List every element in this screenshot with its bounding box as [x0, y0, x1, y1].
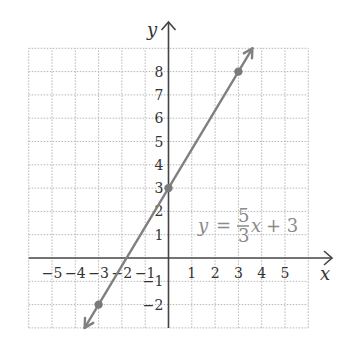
equation-var: x: [251, 215, 261, 236]
data-point: [94, 300, 102, 308]
y-tick-label: −1: [143, 273, 164, 289]
x-tick-label: 1: [187, 265, 196, 281]
equation-equals: =: [216, 215, 231, 236]
y-tick-label: 1: [155, 227, 164, 243]
equation-numerator: 5: [238, 205, 249, 226]
y-tick-label: 4: [155, 157, 164, 173]
equation-rest: + 3: [266, 215, 298, 236]
axes: [29, 22, 332, 328]
y-tick-label: 8: [155, 64, 164, 80]
x-tick-label: −3: [88, 265, 109, 281]
y-tick-label: 5: [155, 134, 164, 150]
y-axis-label: y: [146, 19, 158, 40]
x-tick-label: 2: [211, 265, 220, 281]
y-tick-label: 6: [155, 110, 164, 126]
x-tick-label: 4: [257, 265, 266, 281]
graph: −5−4−3−2−112345−2−112345678 y x y = 5 3 …: [0, 0, 357, 351]
x-tick-label: −4: [65, 265, 86, 281]
x-tick-label: 5: [281, 265, 290, 281]
equation-denominator: 3: [238, 225, 249, 246]
x-tick-label: 3: [234, 265, 243, 281]
data-point: [234, 67, 242, 75]
x-axis-label: x: [320, 263, 330, 284]
x-tick-label: −5: [42, 265, 63, 281]
y-tick-label: −2: [143, 297, 164, 313]
data-point: [164, 184, 172, 192]
y-tick-label: 3: [155, 180, 164, 196]
y-tick-label: 7: [155, 87, 164, 103]
equation-lhs: y: [197, 215, 209, 236]
